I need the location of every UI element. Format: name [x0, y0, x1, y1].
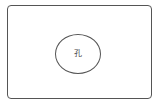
ellipse-label: 孔 [74, 50, 82, 58]
hole-ellipse: 孔 [55, 34, 101, 74]
